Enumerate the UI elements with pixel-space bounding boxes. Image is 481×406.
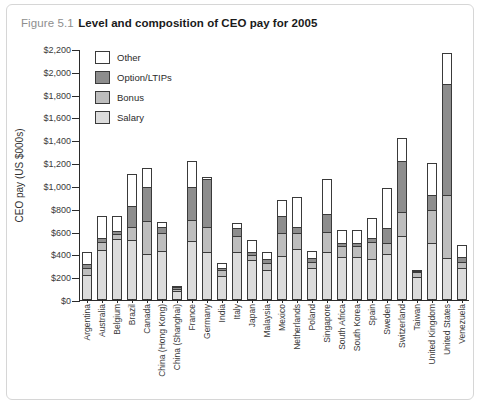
x-axis-tick <box>117 299 118 303</box>
x-axis-tick-label-3: Brazil <box>127 304 137 325</box>
legend-item-bonus[interactable]: Bonus <box>95 91 172 104</box>
stacked-bar[interactable] <box>97 216 107 300</box>
legend-item-salary[interactable]: Salary <box>95 111 172 124</box>
legend-item-other[interactable]: Other <box>95 51 172 64</box>
bar-segment-other <box>383 189 391 229</box>
stacked-bar[interactable] <box>187 161 197 300</box>
stacked-bar[interactable] <box>277 200 287 300</box>
x-axis-tick <box>192 299 193 303</box>
x-axis-slot: Sweden <box>379 303 394 403</box>
x-axis-tick-label-6: China (Shanghai) <box>172 304 182 370</box>
x-axis-tick-label-13: Mexico <box>277 304 287 331</box>
legend-swatch-icon <box>95 91 110 104</box>
stacked-bar[interactable] <box>292 197 302 300</box>
x-axis-tick-label-17: South Africa <box>337 304 347 350</box>
x-axis-slot: Spain <box>364 303 379 403</box>
y-axis-tick-label: $1,600 <box>43 113 71 123</box>
x-axis-tick-label-7: France <box>187 304 197 330</box>
y-axis-tick-label: $1,800 <box>43 91 71 101</box>
bar-segment-other <box>323 180 331 215</box>
bar-segment-bonus <box>458 263 466 270</box>
bar-slot <box>200 50 215 300</box>
legend-swatch-icon <box>95 51 110 64</box>
stacked-bar[interactable] <box>262 252 272 300</box>
stacked-bar[interactable] <box>202 177 212 300</box>
x-axis-tick-label-15: Poland <box>307 304 317 330</box>
y-axis-tick <box>72 118 80 119</box>
bar-slot <box>409 50 424 300</box>
figure-panel: Figure 5.1 Level and composition of CEO … <box>6 4 474 400</box>
x-axis-tick-label-25: Venezuela <box>457 304 467 344</box>
x-axis-tick-label-16: Singapore <box>322 304 332 343</box>
x-axis-slot: United States <box>439 303 454 403</box>
x-axis-tick <box>447 299 448 303</box>
legend-label: Bonus <box>117 92 144 103</box>
stacked-bar[interactable] <box>142 168 152 300</box>
x-axis-tick-label-9: India <box>217 304 227 322</box>
legend-label: Option/LTIPs <box>117 72 172 83</box>
x-axis-tick <box>222 299 223 303</box>
bar-segment-bonus <box>143 222 151 255</box>
bar-segment-bonus <box>128 228 136 241</box>
stacked-bar[interactable] <box>172 286 182 300</box>
x-axis-slot: China (Hong Kong) <box>154 303 169 403</box>
bar-segment-bonus <box>443 196 451 259</box>
legend-label: Salary <box>117 112 144 123</box>
stacked-bar[interactable] <box>82 252 92 300</box>
bar-segment-other <box>353 231 361 245</box>
x-axis-tick <box>462 299 463 303</box>
x-axis-slot: Brazil <box>124 303 139 403</box>
stacked-bar[interactable] <box>412 270 422 301</box>
bar-segment-option-ltips <box>323 215 331 233</box>
y-axis-tick <box>72 164 80 165</box>
bar-segment-salary <box>323 253 331 299</box>
y-axis-tick <box>72 50 80 51</box>
y-axis-tick-label: $600 <box>51 228 71 238</box>
x-axis-tick <box>267 299 268 303</box>
x-axis-tick <box>282 299 283 303</box>
stacked-bar[interactable] <box>397 138 407 300</box>
stacked-bar[interactable] <box>217 263 227 300</box>
bar-segment-salary <box>128 241 136 299</box>
stacked-bar[interactable] <box>382 188 392 300</box>
bar-segment-other <box>443 54 451 84</box>
x-axis-tick-label-21: Switzerland <box>397 304 407 348</box>
bar-segment-bonus <box>293 234 301 250</box>
x-axis-tick-label-14: Netherlands <box>292 304 302 350</box>
y-axis-tick-label: $1,200 <box>43 159 71 169</box>
stacked-bar[interactable] <box>457 245 467 300</box>
bar-segment-other <box>188 162 196 188</box>
stacked-bar[interactable] <box>307 251 317 300</box>
bar-slot <box>230 50 245 300</box>
stacked-bar[interactable] <box>352 230 362 300</box>
bar-segment-salary <box>98 251 106 299</box>
bar-slot <box>439 50 454 300</box>
x-axis-tick <box>387 299 388 303</box>
stacked-bar[interactable] <box>112 216 122 300</box>
x-axis-slot: United Kingdom <box>424 303 439 403</box>
stacked-bar[interactable] <box>367 218 377 300</box>
stacked-bar[interactable] <box>127 174 137 300</box>
stacked-bar[interactable] <box>322 179 332 300</box>
bar-segment-other <box>338 231 346 245</box>
bar-segment-salary <box>278 257 286 299</box>
x-axis-slot: Japan <box>244 303 259 403</box>
x-axis-slot: Switzerland <box>394 303 409 403</box>
bar-segment-salary <box>428 244 436 299</box>
x-axis-slot: South Korea <box>349 303 364 403</box>
stacked-bar[interactable] <box>427 163 437 300</box>
bar-segment-salary <box>218 277 226 299</box>
stacked-bar[interactable] <box>157 222 167 300</box>
bar-segment-option-ltips <box>143 188 151 222</box>
stacked-bar[interactable] <box>337 230 347 300</box>
x-axis-slot: Poland <box>304 303 319 403</box>
legend-item-option-ltips[interactable]: Option/LTIPs <box>95 71 172 84</box>
bar-segment-bonus <box>98 243 106 252</box>
bar-segment-other <box>128 175 136 208</box>
x-axis-tick <box>312 299 313 303</box>
stacked-bar[interactable] <box>232 223 242 300</box>
stacked-bar[interactable] <box>247 240 257 300</box>
bar-segment-salary <box>368 260 376 299</box>
x-axis-tick <box>252 299 253 303</box>
stacked-bar[interactable] <box>442 53 452 300</box>
